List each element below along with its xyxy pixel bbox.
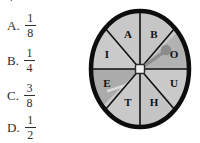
- sector-label-i: I: [105, 48, 109, 60]
- choice-denominator-c: 8: [25, 96, 33, 109]
- question-figure: r A. 1 8 B. 1 4 C. 3 8: [0, 0, 200, 143]
- answer-choice-b[interactable]: B. 1 4: [7, 45, 35, 75]
- answer-choice-d[interactable]: D. 1 2: [7, 112, 36, 142]
- choice-letter-c: C.: [7, 89, 19, 102]
- sector-label-h: H: [150, 96, 159, 108]
- choice-fraction-d: 1 2: [25, 114, 36, 141]
- spinner-hub[interactable]: [136, 65, 145, 74]
- sector-label-u: U: [170, 77, 178, 89]
- choice-denominator-d: 2: [26, 128, 34, 141]
- choice-numerator-b: 1: [25, 47, 33, 60]
- sector-label-t: T: [124, 96, 132, 108]
- choice-numerator-c: 3: [25, 82, 33, 95]
- sector-label-a: A: [124, 28, 132, 40]
- choice-fraction-b: 1 4: [24, 47, 35, 74]
- sector-label-o: O: [170, 48, 179, 60]
- answer-choice-list: A. 1 8 B. 1 4 C. 3 8 D.: [0, 6, 78, 143]
- choice-denominator-b: 4: [25, 61, 33, 74]
- sector-label-b: B: [150, 28, 158, 40]
- choice-letter-b: B.: [7, 54, 19, 67]
- choice-numerator-d: 1: [26, 114, 34, 127]
- cut-off-text-fragment: r: [10, 0, 14, 1]
- answer-choice-a[interactable]: A. 1 8: [7, 10, 36, 40]
- choice-letter-d: D.: [7, 121, 20, 134]
- choice-fraction-c: 3 8: [24, 82, 35, 109]
- spinner-figure: A B O U H T E I: [86, 7, 194, 133]
- choice-fraction-a: 1 8: [25, 12, 36, 39]
- choice-numerator-a: 1: [26, 12, 34, 25]
- spinner-svg: A B O U H T E I: [86, 7, 194, 133]
- choice-letter-a: A.: [7, 19, 20, 32]
- answer-choice-c[interactable]: C. 3 8: [7, 80, 35, 110]
- sector-label-e: E: [103, 77, 110, 89]
- choice-denominator-a: 8: [26, 26, 34, 39]
